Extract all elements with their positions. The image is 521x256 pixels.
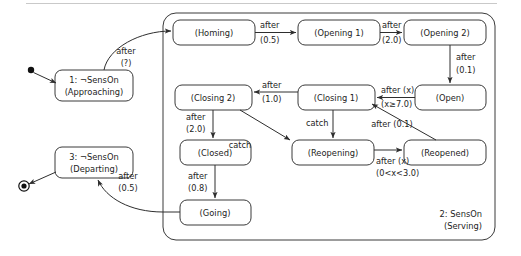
state-reopening[interactable]: (Reopening) xyxy=(292,140,374,165)
state-closing-1-label: (Closing 1) xyxy=(314,93,359,103)
state-going-label: (Going) xyxy=(200,208,231,218)
transition-initial-to-approaching[interactable] xyxy=(34,73,57,84)
transition-opening-2-to-open-label-line1: after xyxy=(456,52,476,62)
state-open-label: (Open) xyxy=(436,93,465,103)
transition-going-to-departing[interactable] xyxy=(98,180,180,212)
transition-reopening-to-reopened-label-line2: (0<x<3.0) xyxy=(376,168,419,178)
transition-opening-1-to-opening-2-label-line1: after xyxy=(382,20,402,30)
transition-closing-2-to-closed-label-line2: (2.0) xyxy=(186,124,205,134)
state-homing[interactable]: (Homing) xyxy=(173,20,255,45)
state-opening-1-label: (Opening 1) xyxy=(314,28,363,38)
transition-homing-to-opening-1-label-line1: after xyxy=(260,20,280,30)
transition-going-to-departing-label-line1: after xyxy=(118,171,138,181)
transition-closing-1-to-reopening-label: catch xyxy=(306,118,328,128)
region-serving-label-line2: (Serving) xyxy=(444,221,482,231)
transition-closed-to-going-label-line2: (0.8) xyxy=(188,183,207,193)
transition-homing-to-opening-1-label-line2: (0.5) xyxy=(260,35,279,45)
transition-departing-to-final[interactable] xyxy=(29,172,56,184)
state-diagram-canvas: 2: SensOn (Serving) 1: ¬SensOn (Approach… xyxy=(0,0,521,256)
transition-opening-1-to-opening-2-label-line2: (2.0) xyxy=(382,35,401,45)
state-approaching-label-line1: 1: ¬SensOn xyxy=(69,75,118,85)
transition-closed-to-going-label-line1: after xyxy=(188,171,208,181)
state-homing-label: (Homing) xyxy=(195,28,234,38)
transition-closing-1-to-closing-2-label-line1: after xyxy=(262,80,282,90)
transition-closing-2-to-reopening[interactable] xyxy=(240,110,290,140)
transition-reopening-to-reopened-label-line1: after (x) xyxy=(376,156,409,166)
state-going[interactable]: (Going) xyxy=(180,200,251,225)
transition-open-to-closing-1-label-line1: after (x) xyxy=(381,85,414,95)
state-reopened-label: (Reopened) xyxy=(421,148,469,158)
state-closing-1[interactable]: (Closing 1) xyxy=(298,85,375,110)
state-open[interactable]: (Open) xyxy=(415,85,486,110)
transition-approaching-to-homing[interactable] xyxy=(104,31,171,70)
transition-approaching-to-homing-label-line1: after xyxy=(116,46,136,56)
transition-going-to-departing-label-line2: (0.5) xyxy=(118,183,137,193)
state-departing-label-line1: 3: ¬SensOn xyxy=(69,152,118,162)
state-approaching-label-line2: (Approaching) xyxy=(65,87,124,97)
state-closing-2-label: (Closing 2) xyxy=(191,93,236,103)
transition-opening-2-to-open-label-line2: (0.1) xyxy=(456,65,475,75)
state-departing-label-line2: (Departing) xyxy=(70,164,118,174)
state-approaching[interactable]: 1: ¬SensOn (Approaching) xyxy=(55,70,133,101)
state-opening-2-label: (Opening 2) xyxy=(420,28,469,38)
transition-open-to-closing-1-label-line2: (x≥7.0) xyxy=(381,99,412,109)
transition-reopened-to-closing-1-label: after (0.1) xyxy=(371,119,412,129)
initial-state-marker xyxy=(28,67,34,73)
final-state-marker-core xyxy=(21,183,26,188)
region-serving-label-line1: 2: SensOn xyxy=(440,209,482,219)
state-opening-1[interactable]: (Opening 1) xyxy=(298,20,380,45)
state-reopening-label: (Reopening) xyxy=(308,148,359,158)
transition-approaching-to-homing-label-line2: (?) xyxy=(121,58,132,68)
transition-closing-2-to-reopening-label: catch xyxy=(229,140,251,150)
transition-closing-2-to-closed-label-line1: after xyxy=(186,112,206,122)
state-opening-2[interactable]: (Opening 2) xyxy=(404,20,486,45)
transition-closing-1-to-closing-2-label-line2: (1.0) xyxy=(262,94,281,104)
state-machine-svg: 2: SensOn (Serving) 1: ¬SensOn (Approach… xyxy=(0,0,521,256)
state-closed-label: (Closed) xyxy=(198,148,232,158)
state-reopened[interactable]: (Reopened) xyxy=(404,140,486,165)
state-closing-2[interactable]: (Closing 2) xyxy=(175,85,252,110)
